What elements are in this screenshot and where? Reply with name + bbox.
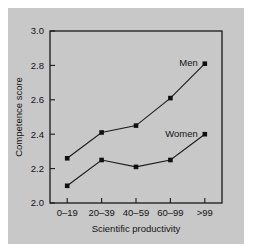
y-axis-ticks xyxy=(50,31,55,203)
x-tick-label: 20–39 xyxy=(88,207,114,218)
y-tick-label: 3.0 xyxy=(31,25,44,36)
y-tick-label: 2.2 xyxy=(31,163,44,174)
data-point-men xyxy=(99,130,104,135)
x-axis-tick-labels: 0–1920–3940–5960–99>99 xyxy=(57,207,213,218)
data-point-men xyxy=(203,61,208,66)
y-axis-title: Competence score xyxy=(13,77,24,157)
data-point-women xyxy=(134,165,139,170)
figure-panel: 2.02.22.42.62.83.0 0–1920–3940–5960–99>9… xyxy=(8,8,244,244)
series-line-men xyxy=(67,64,205,159)
series-line-women xyxy=(67,134,205,186)
series-label-men: Men xyxy=(179,57,197,68)
data-point-women xyxy=(99,158,104,163)
series-label-women: Women xyxy=(165,128,198,139)
data-point-men xyxy=(65,156,70,161)
y-tick-label: 2.4 xyxy=(31,129,44,140)
x-tick-label: 40–59 xyxy=(123,207,149,218)
y-tick-label: 2.0 xyxy=(31,197,44,208)
y-tick-label: 2.6 xyxy=(31,94,44,105)
y-axis-tick-labels: 2.02.22.42.62.83.0 xyxy=(31,25,44,208)
data-point-women xyxy=(168,158,173,163)
data-point-men xyxy=(168,96,173,101)
y-tick-label: 2.8 xyxy=(31,60,44,71)
x-axis-ticks xyxy=(67,198,205,203)
x-axis-title: Scientific productivity xyxy=(92,223,181,234)
data-point-women xyxy=(65,184,70,189)
data-point-men xyxy=(134,123,139,128)
x-tick-label: 60–99 xyxy=(157,207,183,218)
line-chart: 2.02.22.42.62.83.0 0–1920–3940–5960–99>9… xyxy=(8,8,244,244)
x-tick-label: 0–19 xyxy=(57,207,78,218)
data-point-women xyxy=(203,132,208,137)
series-group xyxy=(65,61,207,188)
x-tick-label: >99 xyxy=(197,207,213,218)
